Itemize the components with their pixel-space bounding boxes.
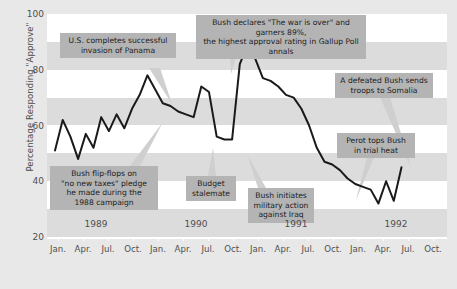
callout-flipflop: Bush flip-flops on "no new taxes" pledge… [50, 166, 158, 210]
x-axis-line [47, 237, 447, 239]
x-tick-7: Oct. [224, 244, 242, 254]
x-tick-3: Oct. [124, 244, 142, 254]
y-tick-40: 40 [18, 176, 44, 186]
callout-perot: Perot tops Bush in trial heat [337, 133, 415, 158]
callout-budget: Budget stalemate [186, 176, 236, 201]
y-axis-ticks: 100 80 60 40 20 [10, 0, 44, 289]
x-tick-9: Apr. [275, 244, 292, 254]
y-tick-60: 60 [18, 121, 44, 131]
x-tick-13: Apr. [375, 244, 392, 254]
x-tick-8: Jan. [250, 244, 266, 254]
y-tick-80: 80 [18, 65, 44, 75]
year-label-1990: 1990 [185, 219, 208, 229]
year-label-1992: 1992 [385, 219, 408, 229]
callout-war-over: Bush declares "The war is over" and garn… [196, 15, 366, 59]
callout-somalia: A defeated Bush sends troops to Somalia [335, 73, 433, 98]
y-tick-100: 100 [18, 9, 44, 19]
x-tick-11: Oct. [324, 244, 342, 254]
year-label-1991: 1991 [285, 219, 308, 229]
x-tick-10: Jul. [301, 244, 314, 254]
callout-iraq: Bush initiates military action against I… [248, 188, 314, 223]
x-tick-2: Jul. [101, 244, 114, 254]
x-tick-5: Apr. [175, 244, 192, 254]
x-tick-15: Oct. [424, 244, 442, 254]
x-tick-4: Jan. [150, 244, 166, 254]
x-tick-12: Jan. [350, 244, 366, 254]
approval-rating-chart: Percentage Responding "Approve" 100 80 6… [0, 0, 457, 289]
callout-panama: U.S. completes successful invasion of Pa… [60, 33, 176, 58]
year-label-1989: 1989 [85, 219, 108, 229]
y-tick-20: 20 [18, 232, 44, 242]
band-50-60 [47, 98, 447, 126]
x-tick-14: Jul. [401, 244, 414, 254]
x-tick-1: Apr. [75, 244, 92, 254]
x-tick-0: Jan. [50, 244, 66, 254]
x-tick-6: Jul. [201, 244, 214, 254]
